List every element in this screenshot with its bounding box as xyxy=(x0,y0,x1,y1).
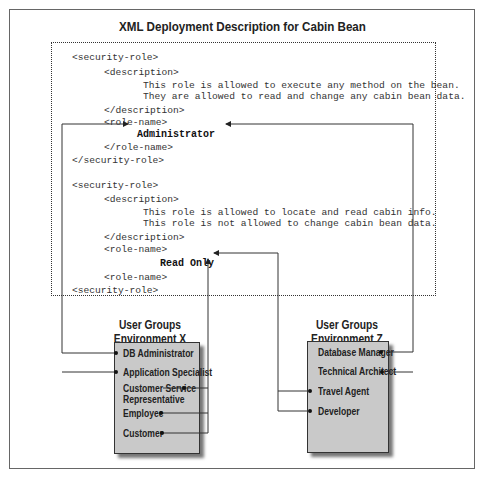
group-z-title-line1: User Groups xyxy=(306,318,388,332)
group-z-member-database-manager: Database Manager xyxy=(318,347,394,358)
role1-description-line1: This role is allowed to execute any meth… xyxy=(143,80,460,91)
role2-description-open: <description> xyxy=(104,194,179,205)
role2-description-line1: This role is allowed to locate and read … xyxy=(143,207,437,218)
group-z-member-travel-agent: Travel Agent xyxy=(318,386,369,397)
role1-description-line2: They are allowed to read and change any … xyxy=(143,91,465,102)
role2-description-line2: This role is not allowed to change cabin… xyxy=(143,218,437,229)
group-x-title-line1: User Groups xyxy=(109,318,191,332)
group-z-member-developer: Developer xyxy=(318,406,359,417)
role1-role-name-close: </role-name> xyxy=(104,142,173,153)
diagram-title: XML Deployment Description for Cabin Bea… xyxy=(34,19,451,34)
group-x-member-representative: Representative xyxy=(123,394,185,405)
role2-security-role-close: <security-role> xyxy=(72,285,158,296)
role1-description-close: </description> xyxy=(104,105,185,116)
role1-security-role-open: <security-role> xyxy=(72,52,158,63)
role1-role-name-open: <role-name> xyxy=(104,117,167,128)
group-z-member-technical-architect: Technical Architect xyxy=(318,366,396,377)
group-x-member-application-specialist: Application Specialist xyxy=(123,367,212,378)
role-name-administrator: Administrator xyxy=(137,129,215,140)
role2-role-name-close: <role-name> xyxy=(104,272,167,283)
role2-description-close: </description> xyxy=(104,232,185,243)
role1-security-role-close: </security-role> xyxy=(72,155,164,166)
role1-description-open: <description> xyxy=(104,67,179,78)
role-name-read-only: Read Only xyxy=(160,258,214,269)
role2-role-name-open: <role-name> xyxy=(104,244,167,255)
group-x-member-employee: Employee xyxy=(123,408,164,419)
role2-security-role-open: <security-role> xyxy=(72,180,158,191)
group-x-member-customer: Customer xyxy=(123,428,163,439)
group-x-member-db-administrator: DB Administrator xyxy=(123,348,194,359)
